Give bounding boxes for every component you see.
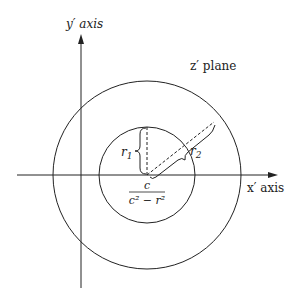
r2-label: r2 xyxy=(190,144,202,160)
y-axis xyxy=(78,34,84,288)
z-prime-plane-diagram: y′ axis x′ axis z′ plane r1 r2 c c² − r² xyxy=(0,0,294,302)
y-axis-label: y′ axis xyxy=(65,17,103,31)
r2-brace-icon xyxy=(150,125,215,179)
r1-brace-icon xyxy=(135,128,146,174)
y-axis-arrowhead-icon xyxy=(78,34,84,44)
center-denominator: c² − r² xyxy=(129,194,165,207)
x-axis-label: x′ axis xyxy=(247,181,284,195)
x-axis-arrowhead-icon xyxy=(268,172,278,178)
plane-label: z′ plane xyxy=(190,59,236,73)
center-numerator: c xyxy=(144,179,150,192)
r2-radius-line xyxy=(147,122,214,175)
r1-label: r1 xyxy=(121,145,132,161)
